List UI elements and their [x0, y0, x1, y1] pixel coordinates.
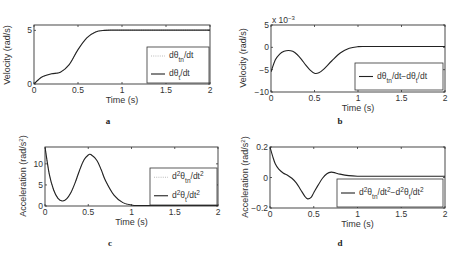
y-axis-label: Acceleration (rad/s2) [240, 136, 250, 217]
y-tick-label: 0 [38, 201, 43, 211]
x-tick-label: 0 [268, 209, 273, 219]
subplot-a: 00.511.5205Time (s)Velocity (rad/s)dθtn/… [2, 25, 213, 126]
x-tick-label: 1 [129, 207, 134, 217]
x-tick-label: 1.5 [169, 207, 181, 217]
y-tick-label: 0 [263, 173, 268, 183]
x-tick-label: 0.5 [309, 93, 321, 103]
x-tick-label: 0 [43, 207, 48, 217]
legend: dθtn/dt−dθt/dt [355, 63, 443, 90]
panel-label: d [337, 238, 342, 248]
y-axis-label: Velocity (rad/s) [238, 28, 248, 88]
y-tick-label: 5 [38, 180, 43, 190]
y-multiplier: x 10−3 [272, 15, 296, 25]
x-tick-label: 1.5 [160, 85, 172, 95]
y-tick-label: 10 [34, 159, 44, 169]
y-tick-label: −10 [255, 87, 270, 97]
y-tick-label: 5 [27, 25, 32, 35]
y-tick-label: −0.2 [251, 203, 268, 213]
y-tick-label: −5 [259, 65, 269, 75]
x-tick-label: 2 [208, 85, 213, 95]
x-tick-label: 1 [355, 209, 360, 219]
figure: 00.511.5205Time (s)Velocity (rad/s)dθtn/… [0, 0, 461, 259]
x-tick-label: 0.5 [82, 207, 94, 217]
x-tick-label: 2 [443, 209, 448, 219]
x-axis-label: Time (s) [115, 217, 148, 227]
x-tick-label: 0 [269, 93, 274, 103]
panel-label: a [106, 116, 111, 126]
y-tick-label: 0.2 [256, 142, 268, 152]
legend: d2θtn/dt2−d2θt/dt2 [337, 179, 443, 207]
x-tick-label: 0.5 [308, 209, 320, 219]
y-tick-label: 5 [264, 20, 269, 30]
x-axis-label: Time (s) [342, 103, 375, 113]
x-tick-label: 1 [356, 93, 361, 103]
x-tick-label: 0.5 [72, 85, 84, 95]
y-tick-label: 0 [264, 42, 269, 52]
y-axis-label: Acceleration (rad/s2) [18, 135, 28, 216]
subplot-c: 00.511.520510Time (s)Acceleration (rad/s… [18, 135, 221, 248]
legend: dθtn/dtdθt/dt [147, 47, 209, 83]
x-tick-label: 1.5 [395, 209, 407, 219]
subplot-d: 00.511.52−0.200.2Time (s)Acceleration (r… [240, 136, 448, 248]
x-tick-label: 0 [32, 85, 37, 95]
x-tick-label: 1 [120, 85, 125, 95]
x-axis-label: Time (s) [106, 95, 139, 105]
legend: d2θtn/dt2d2θt/dt2 [150, 168, 217, 205]
panel-label: c [108, 238, 112, 248]
x-tick-label: 2 [443, 93, 448, 103]
x-axis-label: Time (s) [341, 219, 374, 229]
x-tick-label: 1.5 [396, 93, 408, 103]
panel-label: b [337, 116, 342, 126]
x-tick-label: 2 [216, 207, 221, 217]
y-axis-label: Velocity (rad/s) [2, 25, 12, 85]
subplot-b: 00.511.52−10−505x 10−3Time (s)Velocity (… [238, 15, 448, 126]
y-tick-label: 0 [27, 79, 32, 89]
